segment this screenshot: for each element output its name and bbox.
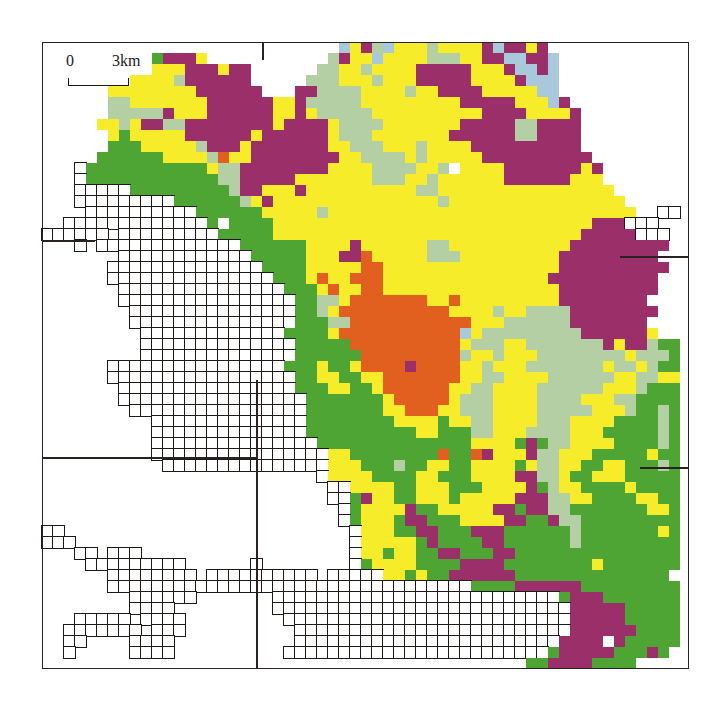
- divider-line: [256, 380, 258, 668]
- divider-line: [42, 240, 95, 242]
- divider-line: [640, 467, 688, 469]
- scale-start-label: 0: [66, 52, 74, 70]
- land-use-raster-map: 0 3km: [0, 0, 723, 715]
- divider-line: [620, 256, 688, 258]
- scale-bar-line: [68, 78, 129, 86]
- divider-line: [42, 457, 256, 459]
- scale-end-label: 3km: [112, 52, 140, 70]
- map-frame: [42, 42, 689, 669]
- scale-bar: 0 3km: [66, 52, 136, 92]
- divider-line: [262, 42, 264, 60]
